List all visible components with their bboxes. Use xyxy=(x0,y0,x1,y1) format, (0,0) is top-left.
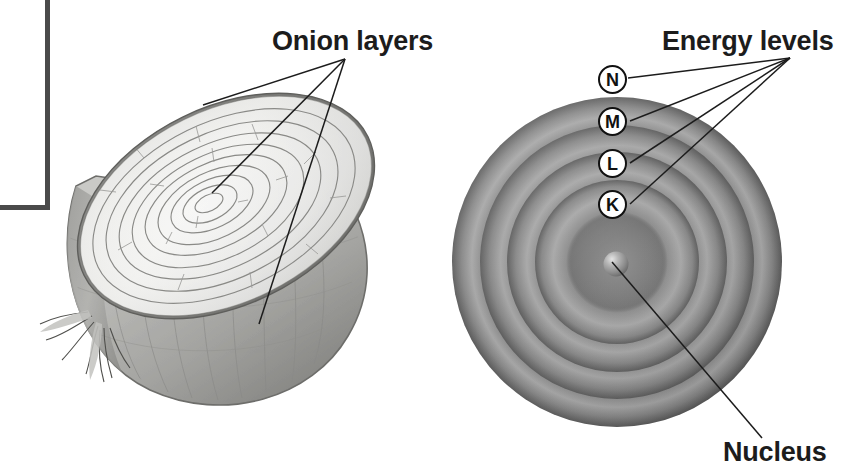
onion-layers-label: Onion layers xyxy=(272,26,433,57)
atom-diagram xyxy=(0,0,858,474)
shell-badge-k-letter: K xyxy=(606,196,619,214)
shell-badge-l-letter: L xyxy=(607,155,618,173)
nucleus-label: Nucleus xyxy=(723,437,827,468)
energy-levels-label: Energy levels xyxy=(662,26,834,57)
shell-badge-m[interactable]: M xyxy=(598,107,627,136)
shell-badge-k[interactable]: K xyxy=(598,190,627,219)
shell-badge-m-letter: M xyxy=(605,113,620,131)
shell-badge-n-letter: N xyxy=(606,71,619,89)
nucleus-sphere xyxy=(604,252,629,277)
science-figure: N M L K Onion layers Energy levels Nucle… xyxy=(0,0,858,474)
shell-badge-n[interactable]: N xyxy=(598,65,627,94)
shell-badge-l[interactable]: L xyxy=(598,149,627,178)
